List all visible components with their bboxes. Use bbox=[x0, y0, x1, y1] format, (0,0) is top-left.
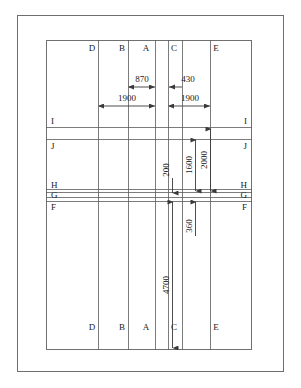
row-label-left-H: H bbox=[51, 180, 58, 190]
dimension-1900-left-label: 1900 bbox=[118, 93, 137, 103]
column-label-top-B: B bbox=[119, 43, 125, 53]
dimension-1900-right-label: 1900 bbox=[181, 93, 200, 103]
drawing-canvas: D B A C E D B A C E I J H G F I J H G bbox=[46, 40, 252, 350]
row-label-right-F: F bbox=[242, 202, 247, 212]
column-label-bottom-A: A bbox=[143, 322, 150, 332]
row-label-left-I: I bbox=[51, 116, 54, 126]
column-label-top-D: D bbox=[89, 43, 96, 53]
column-label-bottom-C: C bbox=[171, 322, 177, 332]
row-label-right-G: G bbox=[241, 190, 248, 200]
column-label-top-E: E bbox=[213, 43, 219, 53]
dimension-870-label: 870 bbox=[135, 74, 149, 84]
row-label-left-J: J bbox=[51, 141, 55, 151]
dimension-1600-label: 1600 bbox=[184, 156, 194, 175]
column-label-bottom-B: B bbox=[119, 322, 125, 332]
dimension-2000-label: 2000 bbox=[199, 151, 209, 170]
column-label-bottom-E: E bbox=[213, 322, 219, 332]
column-label-bottom-D: D bbox=[89, 322, 96, 332]
row-label-left-G: G bbox=[51, 190, 58, 200]
section-drawing: D B A C E D B A C E I J H G F I J H G bbox=[46, 40, 252, 350]
row-label-left-F: F bbox=[51, 202, 56, 212]
row-label-right-H: H bbox=[241, 180, 248, 190]
column-label-top-C: C bbox=[171, 43, 177, 53]
row-label-right-I: I bbox=[244, 116, 247, 126]
dimension-4700-label: 4700 bbox=[161, 276, 171, 295]
row-label-right-J: J bbox=[243, 141, 247, 151]
dimension-430-label: 430 bbox=[181, 74, 195, 84]
dimension-360-label: 360 bbox=[184, 219, 194, 233]
dimension-200-label: 200 bbox=[161, 163, 171, 177]
column-label-top-A: A bbox=[143, 43, 150, 53]
